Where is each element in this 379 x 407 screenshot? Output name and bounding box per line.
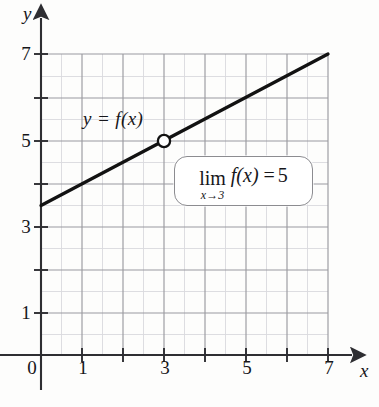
y-tick-label-7: 7 [18, 44, 34, 63]
limit-expression: lim x→3 f(x) = 5 [199, 164, 288, 198]
limit-body: f(x) [231, 164, 259, 187]
x-tick-label-3: 3 [157, 358, 173, 377]
x-tick-label-7: 7 [321, 358, 337, 377]
graph-figure: 0 1 3 5 7 1 3 5 7 y x y = f(x) lim x→3 f… [0, 0, 379, 407]
open-circle-discontinuity [158, 135, 170, 147]
y-tick-label-1: 1 [18, 303, 34, 322]
limit-operator: lim [199, 168, 226, 188]
function-label: y = f(x) [83, 108, 143, 130]
limit-value: 5 [278, 164, 288, 187]
x-axis-label: x [360, 361, 368, 380]
x-tick-label-1: 1 [75, 358, 91, 377]
limit-equals: = [264, 164, 275, 187]
limit-subscript: x→3 [201, 189, 224, 201]
y-tick-label-5: 5 [18, 131, 34, 150]
limit-callout-content: lim x→3 f(x) = 5 [175, 157, 312, 205]
y-tick-label-3: 3 [18, 217, 34, 236]
limit-operator-stack: lim x→3 [199, 168, 226, 201]
y-axis-label: y [23, 4, 31, 23]
x-tick-label-5: 5 [239, 358, 255, 377]
x-tick-label-0: 0 [24, 358, 40, 377]
limit-callout-box: lim x→3 f(x) = 5 [174, 156, 313, 206]
